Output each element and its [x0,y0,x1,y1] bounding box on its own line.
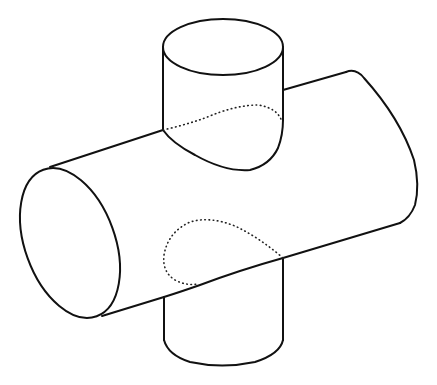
top-intersection-hidden [163,105,282,130]
bottom-intersection-hidden [164,220,283,285]
right-end-arc [346,71,417,223]
bottom-cylinder-base-arc [164,340,283,366]
top-cylinder-cap [163,19,283,75]
top-intersection-curve [163,120,283,170]
horizontal-cylinder-top-edge-right [283,72,346,90]
intersecting-cylinders-drawing [0,0,437,385]
figure-canvas [0,0,437,385]
horizontal-cylinder-top-edge-left [50,130,163,167]
horizontal-cylinder-bottom-edge [102,223,400,316]
left-end-ellipse [1,154,139,331]
